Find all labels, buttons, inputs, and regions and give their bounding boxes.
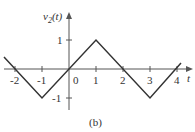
y-tick-label: 1 [57,34,63,46]
x-tick-label: 0 [73,74,79,86]
x-tick-label: -2 [10,74,19,86]
figure-caption: (b) [89,116,102,129]
x-axis-label: t [187,72,191,84]
x-tick-label: -1 [37,74,46,86]
y-tick-label: -1 [52,92,61,104]
x-tick-label: 3 [147,74,153,86]
y-axis-arrow-icon [66,12,72,19]
x-tick-label: 4 [174,74,180,86]
y-axis-label: v2(t) [43,10,63,25]
triangle-waveform-plot: -2 -1 0 1 2 3 4 1 -1 v2(t) t (b) [0,0,195,132]
x-tick-label: 2 [120,74,126,86]
x-tick-label: 1 [93,74,99,86]
